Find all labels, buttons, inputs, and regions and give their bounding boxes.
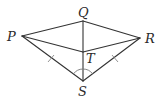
label-R: R bbox=[144, 31, 155, 46]
segment-PT bbox=[22, 36, 83, 52]
segment-QR bbox=[83, 21, 140, 38]
angle-arc-PST bbox=[74, 69, 84, 74]
geometry-figure: Q P R T S bbox=[0, 0, 167, 99]
segment-PS bbox=[22, 36, 83, 81]
label-P: P bbox=[6, 29, 16, 44]
label-S: S bbox=[78, 84, 87, 99]
segment-PQ bbox=[22, 21, 83, 36]
label-T: T bbox=[86, 51, 96, 66]
angle-arc-TSR bbox=[83, 69, 93, 74]
label-Q: Q bbox=[78, 5, 89, 20]
